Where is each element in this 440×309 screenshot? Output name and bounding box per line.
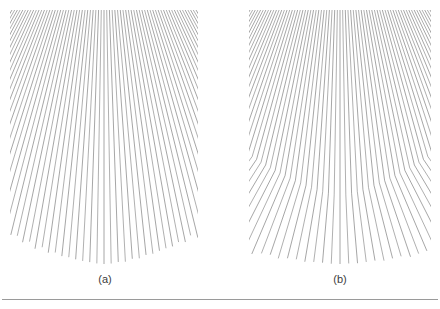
panel-b-lines (249, 6, 431, 268)
panel-a-straight-fan (10, 6, 198, 268)
horizontal-rule (2, 299, 438, 300)
panel-b-kinked-fan (249, 6, 431, 268)
figure-root: (a) (b) (0, 0, 440, 309)
caption-b: (b) (310, 273, 370, 285)
caption-a: (a) (75, 273, 135, 285)
panel-a-lines (10, 6, 198, 268)
